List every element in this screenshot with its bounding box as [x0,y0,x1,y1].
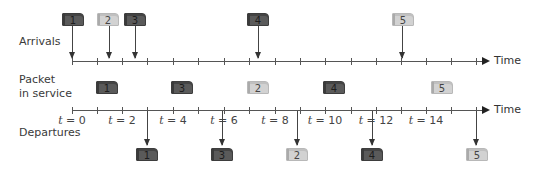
tick [173,58,174,65]
departure-arrow-icon [372,111,373,145]
tick [122,107,123,114]
arrival-arrow-icon [135,26,136,58]
arrivals-label: Arrivals [19,35,60,49]
tick [275,107,276,114]
tick [224,107,225,114]
tick [426,107,427,114]
departure-packet-5: 5 [466,148,488,161]
tick-label-t4: t = 4 [159,114,187,127]
departures-label: Departures [19,126,81,140]
departure-packet-3: 3 [211,148,233,161]
tick-label-t14: t = 14 [409,114,444,127]
tick [351,58,352,65]
tick [198,58,199,65]
tick [426,58,427,65]
tick-label-t10: t = 10 [308,114,343,127]
axis-line [72,110,484,111]
tick [451,58,452,65]
axis-arrowhead-icon [482,57,490,65]
departure-arrow-icon [476,111,477,145]
arrival-arrow-icon [109,26,110,58]
arrival-arrow-icon [258,26,259,58]
departure-arrow-icon [147,111,148,145]
departure-arrow-icon [297,111,298,145]
tick [401,107,402,114]
arrival-packet-5: 5 [392,13,414,26]
tick [122,58,123,65]
tick [147,58,148,65]
tick [224,58,225,65]
tick [97,107,98,114]
arrival-packet-2: 2 [97,13,119,26]
tick [300,107,301,114]
tick [72,107,73,114]
departure-packet-4: 4 [361,148,383,161]
time-axis-label: Time [494,54,521,67]
tick [351,107,352,114]
tick-label-t12: t = 12 [359,114,394,127]
service-packet-4: 4 [323,81,345,94]
service-packet-5: 5 [431,81,453,94]
arrival-arrow-icon [72,26,73,58]
time-axis-label: Time [494,103,521,116]
tick [451,107,452,114]
tick-label-t6: t = 6 [210,114,238,127]
service-packet-3: 3 [171,81,193,94]
tick-label-t0: t = 0 [58,114,86,127]
departure-packet-2: 2 [286,148,308,161]
tick [376,107,377,114]
arrival-arrow-icon [402,26,403,58]
packet-in-service-label-line1: Packet [19,73,55,87]
axis-line [72,61,484,62]
axis-arrowhead-icon [482,106,490,114]
tick [72,58,73,65]
arrival-packet-3: 3 [124,13,146,26]
tick-label-t8: t = 8 [261,114,289,127]
tick [173,107,174,114]
tick [275,58,276,65]
tick [325,58,326,65]
service-packet-1: 1 [96,81,118,94]
arrival-packet-1: 1 [62,13,84,26]
tick [476,58,477,65]
packet-in-service-label-line2: in service [19,87,72,101]
tick [376,58,377,65]
tick [325,107,326,114]
arrival-packet-4: 4 [247,13,269,26]
tick [249,58,250,65]
tick [401,58,402,65]
tick [249,107,250,114]
service-packet-2: 2 [247,81,269,94]
tick [198,107,199,114]
departure-arrow-icon [222,111,223,145]
tick [97,58,98,65]
departure-packet-1: 1 [136,148,158,161]
tick [300,58,301,65]
tick-label-t2: t = 2 [108,114,136,127]
